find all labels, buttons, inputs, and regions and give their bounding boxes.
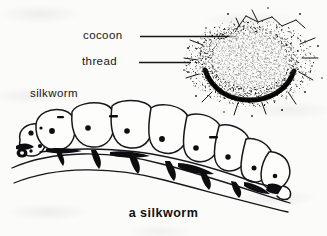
label-silkworm: silkworm xyxy=(30,88,78,100)
silkworm-figure: cocoon thread silkworm a silkworm xyxy=(0,0,327,236)
larva-tail xyxy=(261,152,290,190)
cocoon-illustration xyxy=(183,7,323,117)
silkworm-larva xyxy=(16,101,291,200)
label-cocoon: cocoon xyxy=(83,30,122,42)
figure-caption: a silkworm xyxy=(0,206,327,220)
label-thread: thread xyxy=(82,56,117,68)
illustration-artwork xyxy=(0,0,327,236)
